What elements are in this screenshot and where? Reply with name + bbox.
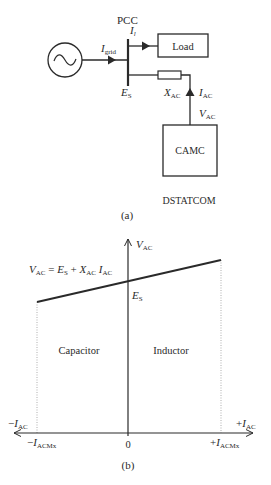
y-axis-label: VAC [136, 238, 153, 252]
converter-current-arrow-icon [186, 88, 195, 96]
reactance-label: XAC [163, 86, 181, 100]
figure-canvas: PCC Il Igrid ES XAC IAC VAC Load CAMC DS… [0, 0, 271, 485]
ac-source-icon [48, 43, 82, 77]
converter-line [181, 75, 190, 125]
bus-voltage-label: ES [120, 86, 132, 100]
load-current-label: Il [129, 24, 136, 38]
intercept-label: ES [131, 289, 143, 303]
dstatcom-label: DSTATCOM [162, 195, 215, 206]
circuit-diagram: PCC Il Igrid ES XAC IAC VAC Load CAMC DS… [48, 14, 217, 222]
reactance-icon [158, 71, 181, 79]
vi-characteristic-line [37, 260, 221, 302]
pcc-label: PCC [117, 14, 138, 26]
equation-label: VAC = ES + XAC IAC [29, 263, 112, 277]
caption-a: (a) [121, 209, 134, 222]
converter-voltage-label: VAC [199, 107, 216, 121]
converter-current-label: IAC [198, 86, 213, 100]
x-pos-axis-label: +IAC [236, 417, 256, 431]
caption-b: (b) [122, 459, 135, 472]
grid-current-arrow-icon [108, 56, 116, 65]
load-current-arrow-icon [142, 42, 150, 51]
camc-box-label: CAMC [175, 145, 205, 156]
x-neg-max-label: −IACMx [27, 436, 57, 450]
x-neg-axis-label: −IAC [8, 417, 28, 431]
inductor-region-label: Inductor [153, 345, 189, 356]
capacitor-region-label: Capacitor [59, 345, 100, 356]
grid-current-label: Igrid [100, 42, 116, 56]
origin-label: 0 [125, 439, 130, 450]
load-box-label: Load [172, 41, 194, 52]
vi-characteristic-chart: VAC VAC = ES + XAC IAC ES Capacitor Indu… [8, 238, 256, 472]
x-pos-max-label: +IACMx [210, 436, 240, 450]
